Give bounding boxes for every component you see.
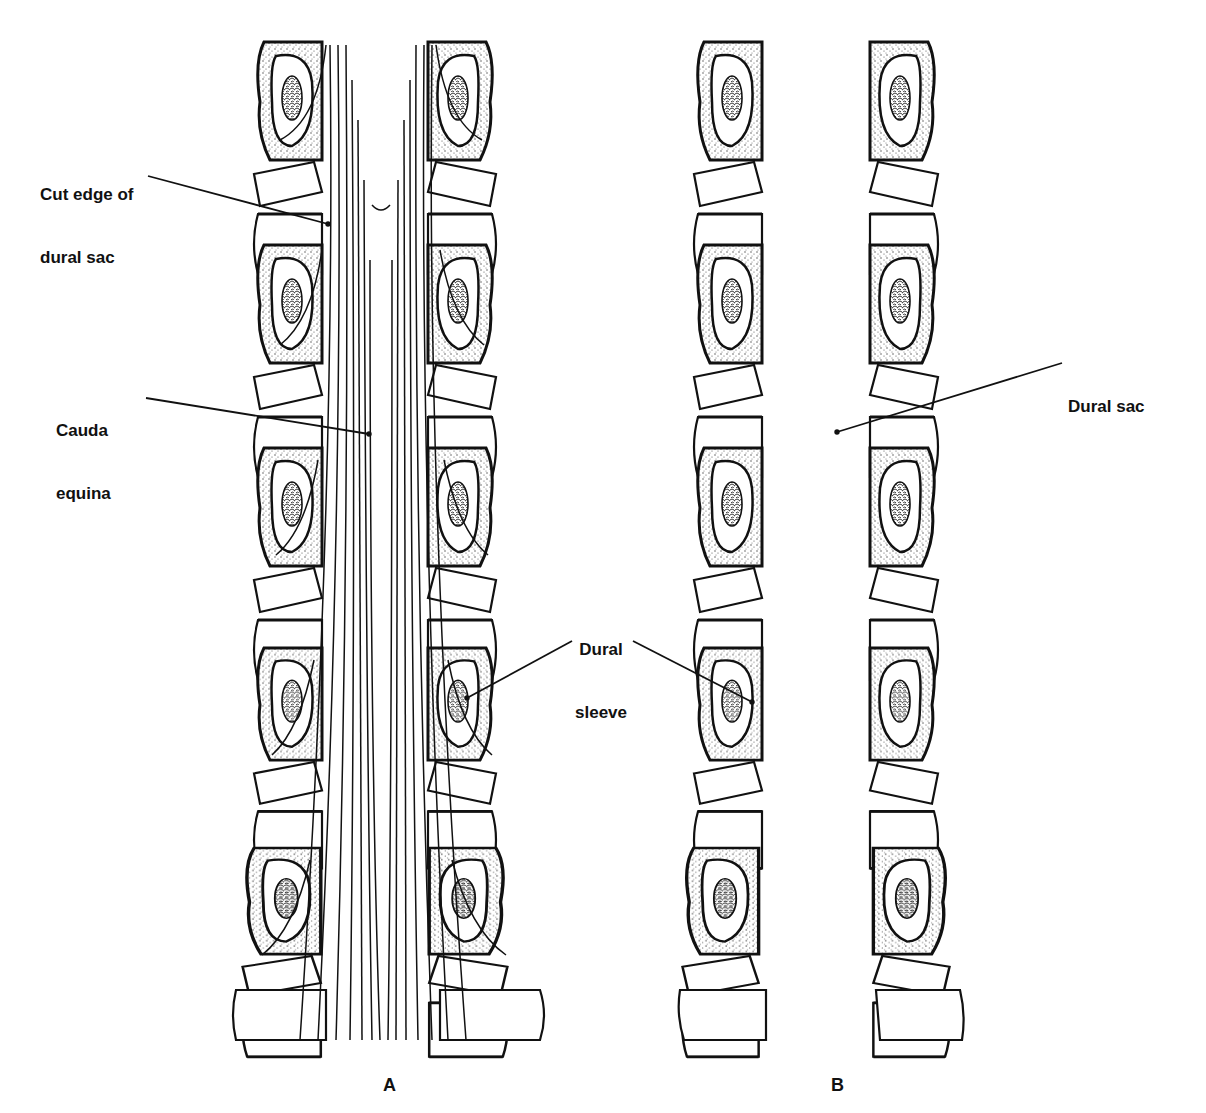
label-line: Dural xyxy=(575,639,627,660)
label-cut-edge-of-dural-sac: Cut edge of dural sac xyxy=(40,142,134,289)
label-dural-sleeve: Dural sleeve xyxy=(575,597,627,744)
panel-a-drawing xyxy=(233,42,544,1057)
label-line: Cauda xyxy=(56,420,111,441)
label-cauda-equina: Cauda equina xyxy=(56,378,111,525)
spinal-canal-figure xyxy=(0,0,1206,1113)
panel-b-drawing xyxy=(679,42,964,1057)
label-line: dural sac xyxy=(40,247,134,268)
label-line: Dural sac xyxy=(1068,396,1145,417)
panel-letter-a: A xyxy=(383,1075,396,1096)
label-line: sleeve xyxy=(575,702,627,723)
label-line: equina xyxy=(56,483,111,504)
panel-letter-b: B xyxy=(831,1075,844,1096)
leader-line xyxy=(837,363,1062,432)
label-dural-sac: Dural sac xyxy=(1068,354,1145,438)
label-line: Cut edge of xyxy=(40,184,134,205)
